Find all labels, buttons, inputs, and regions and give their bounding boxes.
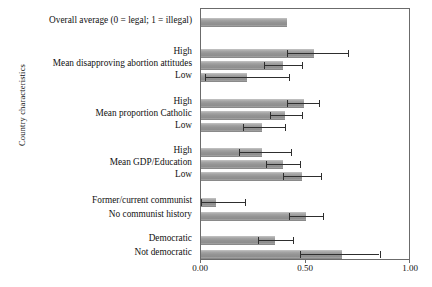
error-bar-line	[287, 53, 348, 54]
category-label: No communist history	[109, 209, 192, 219]
error-bar-line	[266, 164, 300, 165]
error-bar-cap-high	[323, 213, 324, 220]
error-bar-cap-low	[270, 112, 271, 119]
error-bar-cap-high	[300, 161, 301, 168]
x-tick-label: 1.00	[402, 263, 418, 273]
error-bar-line	[300, 254, 380, 255]
x-tick-label: 0.50	[297, 263, 313, 273]
error-bar-cap-high	[302, 112, 303, 119]
error-bar-cap-low	[266, 161, 267, 168]
error-bar-line	[289, 216, 323, 217]
category-label: Mean GDP/Education	[110, 157, 192, 167]
error-bar-cap-low	[283, 173, 284, 180]
category-label: Overall average (0 = legal; 1 = illegal)	[49, 15, 192, 25]
error-bar-cap-high	[380, 251, 381, 258]
error-bar-line	[205, 77, 289, 78]
error-bar-cap-high	[291, 149, 292, 156]
error-bar-line	[283, 176, 321, 177]
error-bar-cap-low	[205, 74, 206, 81]
error-bar-cap-high	[302, 62, 303, 69]
bar	[201, 18, 287, 27]
error-bar-cap-low	[264, 62, 265, 69]
x-axis-ticks: 0.000.501.00	[200, 260, 410, 280]
error-bar-cap-low	[287, 50, 288, 57]
category-label: High	[173, 46, 192, 56]
error-bar-cap-low	[287, 100, 288, 107]
category-label-group: Overall average (0 = legal; 1 = illegal)…	[0, 0, 196, 260]
error-bar-cap-high	[285, 124, 286, 131]
category-label: Low	[175, 70, 192, 80]
category-label: Democratic	[149, 233, 192, 243]
error-bar-cap-low	[243, 124, 244, 131]
category-label: Mean disapproving abortion attitudes	[53, 58, 192, 68]
error-bar-line	[201, 202, 245, 203]
category-label: High	[173, 96, 192, 106]
error-bar-cap-low	[201, 199, 202, 206]
error-bar-cap-high	[245, 199, 246, 206]
error-bar-line	[239, 152, 292, 153]
error-bar-line	[287, 103, 319, 104]
chart-figure: Country characteristics Overall average …	[0, 0, 432, 287]
error-bar-cap-low	[239, 149, 240, 156]
category-label: Former/current communist	[92, 195, 192, 205]
category-label: Not democratic	[134, 247, 192, 257]
error-bar-line	[264, 65, 302, 66]
error-bar-cap-low	[300, 251, 301, 258]
plot-area	[200, 8, 410, 260]
category-label: Mean proportion Catholic	[95, 108, 192, 118]
category-label: Low	[175, 120, 192, 130]
error-bar-cap-high	[293, 237, 294, 244]
error-bar-cap-high	[289, 74, 290, 81]
category-label: High	[173, 145, 192, 155]
error-bar-line	[258, 240, 294, 241]
error-bar-cap-high	[321, 173, 322, 180]
error-bar-line	[243, 127, 285, 128]
error-bar-cap-high	[319, 100, 320, 107]
x-tick-label: 0.00	[192, 263, 208, 273]
error-bar-line	[270, 115, 302, 116]
error-bar-cap-low	[258, 237, 259, 244]
error-bar-cap-low	[289, 213, 290, 220]
category-label: Low	[175, 169, 192, 179]
error-bar-cap-high	[348, 50, 349, 57]
